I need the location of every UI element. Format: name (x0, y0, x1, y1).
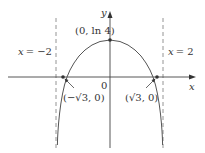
asymptote-right-label: x= 2 (168, 46, 194, 57)
point-left-zero (61, 75, 65, 79)
point-right-zero (155, 75, 159, 79)
y-axis-label: y (100, 7, 107, 18)
y-axis-arrow-icon (108, 11, 113, 18)
origin-label: 0 (101, 80, 107, 91)
graph-canvas: y x 0 (0, ln 4) x= −2 x= 2 (−√3, 0) (√3,… (0, 0, 205, 153)
asymptote-left-label: x= −2 (18, 46, 52, 57)
y-intercept-label: (0, ln 4) (75, 25, 115, 36)
left-zero-label: (−√3, 0) (63, 92, 105, 103)
x-axis-arrow-icon (189, 75, 196, 80)
right-zero-label: (√3, 0) (125, 92, 158, 103)
x-axis-label: x (189, 81, 195, 92)
point-y-intercept (108, 38, 112, 42)
